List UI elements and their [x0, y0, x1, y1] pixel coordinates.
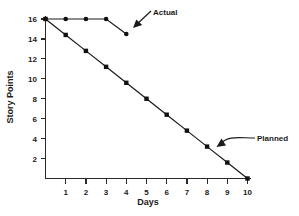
y-tick-label-10: 10 — [28, 75, 37, 84]
data-point-planned-day-8 — [205, 144, 209, 148]
data-point-planned-day-3 — [104, 65, 108, 69]
x-tick-label-7: 7 — [185, 188, 190, 197]
x-tick-label-8: 8 — [205, 188, 210, 197]
data-point-planned-day-9 — [225, 160, 229, 164]
data-point-actual-day-4 — [124, 32, 129, 37]
chart-canvas: 246810121416 12345678910 Days Story Poin… — [0, 0, 299, 216]
y-axis-ticks — [41, 19, 46, 159]
y-tick-label-14: 14 — [28, 35, 37, 44]
y-axis-title: Story Points — [5, 70, 15, 123]
x-tick-label-1: 1 — [63, 188, 68, 197]
x-tick-label-9: 9 — [225, 188, 230, 197]
y-axis-tick-labels: 246810121416 — [28, 15, 37, 164]
annotation-planned-leader — [220, 138, 256, 144]
y-tick-label-6: 6 — [33, 115, 38, 124]
data-point-actual-day-3 — [104, 17, 109, 22]
x-tick-label-5: 5 — [144, 188, 149, 197]
data-point-planned-day-10 — [245, 176, 249, 180]
y-tick-label-4: 4 — [33, 135, 38, 144]
data-point-planned-day-5 — [144, 97, 148, 101]
data-point-planned-day-2 — [84, 49, 88, 53]
data-point-actual-day-2 — [84, 17, 89, 22]
annotation-actual-label: Actual — [153, 8, 177, 17]
annotation-planned-label: Planned — [257, 134, 288, 143]
data-point-planned-day-1 — [64, 33, 68, 37]
data-point-actual-day-1 — [63, 17, 68, 22]
burndown-chart: 246810121416 12345678910 Days Story Poin… — [0, 0, 299, 216]
data-point-planned-day-6 — [165, 112, 169, 116]
x-axis-ticks — [66, 179, 248, 184]
x-tick-label-4: 4 — [124, 188, 129, 197]
x-tick-label-10: 10 — [243, 188, 252, 197]
series-planned — [43, 17, 249, 181]
data-point-planned-day-7 — [185, 128, 189, 132]
x-tick-label-2: 2 — [84, 188, 89, 197]
series-actual — [43, 17, 128, 37]
x-tick-label-6: 6 — [164, 188, 169, 197]
data-point-actual-day-0 — [43, 17, 48, 22]
y-tick-label-12: 12 — [28, 55, 37, 64]
y-tick-label-16: 16 — [28, 15, 37, 24]
y-tick-label-2: 2 — [33, 155, 38, 164]
x-tick-label-3: 3 — [104, 188, 109, 197]
y-tick-label-8: 8 — [33, 95, 38, 104]
x-axis-tick-labels: 12345678910 — [63, 188, 252, 197]
annotation-actual: Actual — [133, 8, 177, 29]
annotation-planned: Planned — [217, 134, 289, 147]
x-axis-title: Days — [137, 197, 159, 207]
data-point-planned-day-4 — [124, 81, 128, 85]
